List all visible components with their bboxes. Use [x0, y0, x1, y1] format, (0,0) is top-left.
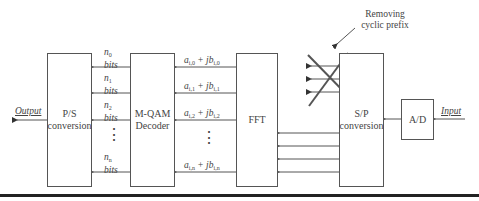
qam-title: M-QAM [135, 108, 171, 119]
bits-ellipsis: ⋮ [106, 127, 122, 143]
symbol-label-2: ai,2 + jbi,2 [184, 108, 220, 119]
removing-cp-annotation: Removing cyclic prefix [350, 9, 420, 31]
bottom-rule [0, 194, 479, 197]
output-label: Output [15, 106, 41, 116]
bits-label-n: nnbits [104, 152, 118, 175]
sp-subtitle: conversion [340, 120, 384, 131]
bits-label-1: n1bits [104, 73, 118, 96]
symbol-label-1: ai,1 + jbi,1 [184, 81, 220, 92]
ps-subtitle: conversion [48, 120, 92, 131]
ad-block: A/D [401, 99, 434, 140]
annotation-line1: Removing [365, 9, 405, 19]
ad-label: A/D [409, 114, 426, 126]
mqam-decoder-block: M-QAMDecoder [130, 53, 175, 187]
ps-title: P/S [63, 108, 77, 119]
ps-conversion-block: P/Sconversion [47, 53, 92, 187]
sp-title: S/P [355, 108, 369, 119]
input-label: Input [441, 106, 461, 116]
sp-conversion-block: S/Pconversion [339, 53, 384, 187]
qam-subtitle: Decoder [136, 120, 170, 131]
symbol-ellipsis: ⋮ [201, 130, 217, 146]
fft-block: FFT [236, 53, 278, 187]
bits-label-2: n2bits [104, 100, 118, 123]
symbol-label-n: ai,n + jbi,n [184, 160, 220, 171]
fft-label: FFT [248, 114, 265, 126]
symbol-label-0: ai,0 + jbi,0 [184, 55, 220, 66]
annotation-line2: cyclic prefix [361, 20, 409, 30]
bits-label-0: n0bits [104, 47, 118, 70]
